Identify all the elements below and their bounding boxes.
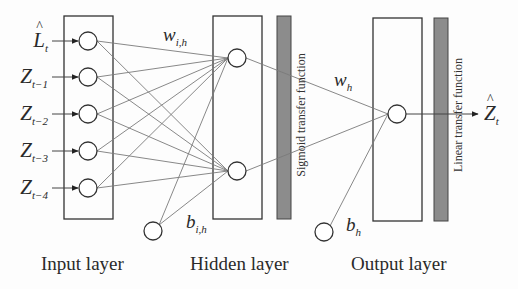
input-node-5 (79, 179, 97, 197)
input-hidden-connections (97, 41, 228, 225)
hidden-layer-title: Hidden layer (190, 253, 289, 275)
hidden-output-connections (246, 58, 388, 226)
hidden-node-2 (228, 162, 246, 180)
input-label-1: Lt (0, 30, 48, 54)
bias-node-output (315, 223, 333, 241)
input-label-3: Zt−2 (0, 103, 48, 127)
weight-label-h: wh (334, 70, 352, 93)
input-label-4: Zt−3 (0, 140, 48, 164)
input-node-2 (79, 68, 97, 86)
bias-label-h: bh (346, 215, 361, 238)
weight-label-ih: wi,h (163, 25, 187, 48)
bias-label-ih: bi,h (186, 212, 207, 235)
output-label: Zt (484, 103, 518, 127)
neural-network-diagram (0, 0, 518, 289)
input-label-5: Zt−4 (0, 177, 48, 201)
input-node-4 (79, 142, 97, 160)
hidden-layer-box (213, 16, 262, 219)
input-layer-title: Input layer (41, 253, 124, 275)
output-layer-title: Output layer (351, 253, 447, 275)
bias-node-hidden (144, 222, 162, 240)
linear-transfer-label: Linear transfer function (451, 58, 466, 172)
input-node-1 (79, 32, 97, 50)
output-node (388, 105, 406, 123)
input-label-2: Zt−1 (0, 66, 48, 90)
sigmoid-transfer-bar (277, 16, 291, 219)
input-arrows (52, 41, 78, 188)
hidden-node-1 (228, 49, 246, 67)
sigmoid-transfer-label: Sigmoid transfer function (294, 53, 309, 176)
input-node-3 (79, 105, 97, 123)
linear-transfer-bar (434, 18, 448, 221)
